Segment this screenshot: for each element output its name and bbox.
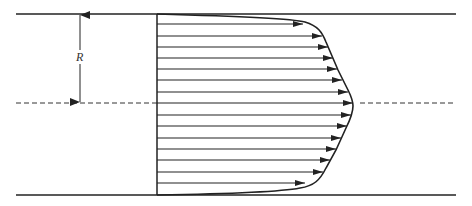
pipe-flow-diagram: R	[0, 0, 472, 206]
velocity-profile-curve	[157, 14, 353, 195]
diagram-canvas: R	[0, 0, 472, 206]
velocity-arrows	[157, 24, 353, 183]
radius-label: R	[75, 50, 84, 64]
